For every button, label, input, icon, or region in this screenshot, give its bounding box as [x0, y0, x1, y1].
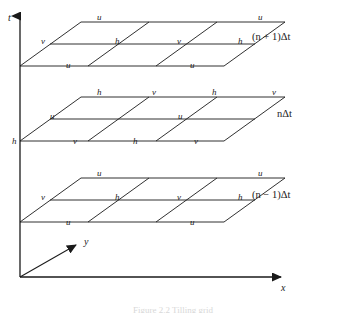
grid-var-u: u: [97, 13, 102, 22]
grid-var-u: u: [97, 169, 102, 178]
grid-var-v: v: [272, 88, 276, 97]
grid-var-u: u: [190, 218, 195, 227]
axis-label-y: y: [84, 237, 88, 247]
figure-canvas: t y x (n + 1)Δt nΔt (n − 1)Δt uuvhvhuuhv…: [0, 0, 346, 313]
grid-var-h: h: [238, 193, 243, 202]
grid-var-u: u: [66, 61, 71, 70]
grid-var-h: h: [238, 37, 243, 46]
grid-var-u: u: [178, 112, 183, 121]
plane-n-minus-1: [20, 178, 285, 222]
axis-y: [20, 245, 76, 277]
plane-n: [20, 97, 285, 141]
grid-var-h: h: [115, 37, 120, 46]
grid-var-u: u: [258, 169, 263, 178]
grid-var-v: v: [177, 37, 181, 46]
grid-var-h: h: [133, 137, 138, 146]
time-label-n-minus-1: (n − 1)Δt: [252, 190, 290, 201]
grid-var-h: h: [115, 193, 120, 202]
grid-var-v: v: [194, 137, 198, 146]
grid-var-v: v: [177, 193, 181, 202]
grid-var-u: u: [50, 112, 55, 121]
grid-var-u: u: [258, 13, 263, 22]
grid-var-h: h: [97, 88, 102, 97]
figure-caption: Figure 2.2 Tilling grid: [0, 305, 346, 313]
axis-label-x: x: [281, 283, 285, 293]
grid-var-u: u: [190, 61, 195, 70]
time-label-n-plus-1: (n + 1)Δt: [252, 32, 290, 43]
grid-var-v: v: [41, 37, 45, 46]
grid-var-v: v: [73, 137, 77, 146]
time-label-n: nΔt: [277, 109, 292, 120]
grid-var-h: h: [12, 137, 17, 146]
plane-n-plus-1: [20, 22, 285, 66]
grid-var-v: v: [41, 193, 45, 202]
grid-var-h: h: [212, 88, 217, 97]
grid-var-u: u: [66, 218, 71, 227]
diagram-svg: [0, 0, 346, 313]
axis-label-t: t: [8, 13, 11, 23]
grid-var-v: v: [152, 88, 156, 97]
